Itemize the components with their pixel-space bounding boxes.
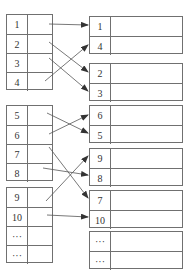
- arrow-1: [49, 24, 88, 25]
- arrow-4: [45, 45, 88, 81]
- arrow-3: [49, 58, 88, 91]
- arrow-6: [49, 115, 88, 134]
- arrow-2: [49, 42, 88, 72]
- arrow-5: [47, 113, 88, 133]
- arrow-9: [46, 156, 88, 201]
- arrow-10: [47, 215, 88, 217]
- arrows-layer: [0, 0, 186, 272]
- arrow-7: [49, 147, 88, 198]
